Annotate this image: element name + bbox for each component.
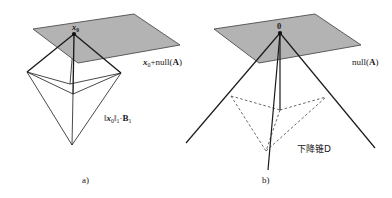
panel-b-group (186, 14, 375, 170)
panel-a-caption: a) (82, 176, 89, 185)
affine-subspace-plane (33, 14, 180, 63)
affine-subspace-paren-close: ) (179, 57, 182, 67)
affine-subspace-label: x0+null(A) (143, 58, 182, 69)
nullspace-plane (214, 14, 361, 63)
origin-point-marker (278, 31, 282, 35)
descent-cone-rays (186, 33, 375, 170)
octa-edge-front-bottom (72, 94, 73, 145)
figure-container: x0 0 x0+null(A) null(A) ‖x0‖1·B1 下降锥D a)… (0, 0, 392, 198)
cone-rim-left-back (231, 96, 280, 110)
x0-point-label: x0 (72, 23, 79, 33)
x0-point-subscript: 0 (76, 27, 79, 33)
origin-point-label: 0 (277, 22, 281, 31)
octa-edge-top-right (70, 73, 121, 84)
panel-b-caption: b) (262, 176, 270, 185)
cone-ray-left (186, 33, 280, 143)
affine-subspace-operator: +null( (150, 57, 172, 67)
cone-rim-back-right (280, 97, 326, 110)
descent-cone-label: 下降锥D (297, 145, 331, 154)
l1-ball-label: ‖x0‖1·B1 (104, 114, 131, 125)
nullspace-label: null(A) (352, 58, 379, 67)
nullspace-paren-close: ) (376, 57, 379, 67)
l1-ball-set-subscript: 1 (129, 118, 132, 124)
descent-cone-dashed (231, 96, 326, 151)
figure-drawing (0, 0, 392, 198)
panel-a-group (27, 14, 180, 145)
nullspace-paren-open: null( (352, 57, 369, 67)
